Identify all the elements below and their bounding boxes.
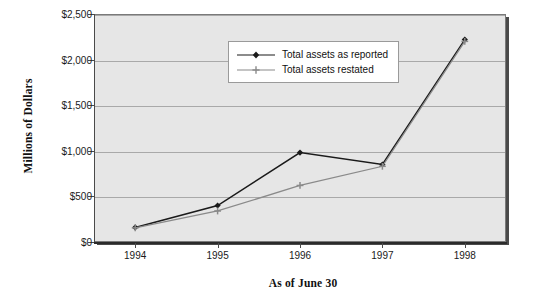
x-tick-label: 1998 — [435, 250, 495, 261]
line-chart: Millions of Dollars $0$500$1,000$1,500$2… — [0, 0, 554, 302]
legend-marker-reported-icon — [237, 48, 275, 62]
legend-label-restated: Total assets restated — [282, 64, 374, 75]
x-tick-label: 1994 — [105, 250, 165, 261]
x-axis-title: As of June 30 — [96, 277, 510, 289]
chart-legend: Total assets as reported Total assets re… — [228, 41, 399, 83]
x-tick-label: 1997 — [352, 250, 412, 261]
legend-marker-restated-icon — [237, 63, 275, 77]
legend-item-restated: Total assets restated — [237, 62, 388, 77]
x-tick-label: 1995 — [188, 250, 248, 261]
legend-item-reported: Total assets as reported — [237, 47, 388, 62]
data-point-marker — [132, 224, 139, 231]
x-tick-label: 1996 — [270, 250, 330, 261]
data-point-marker — [297, 182, 304, 189]
data-point-marker — [214, 208, 221, 215]
legend-label-reported: Total assets as reported — [282, 49, 388, 60]
